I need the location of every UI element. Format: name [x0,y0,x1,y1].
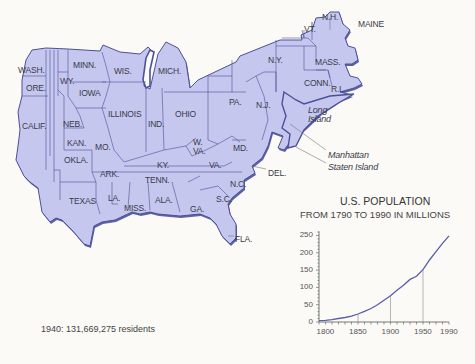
state-label-mo: MO. [95,143,110,152]
chart-subtitle: FROM 1790 TO 1990 IN MILLIONS [300,209,450,220]
state-label-miss: MISS. [124,204,146,213]
state-label-mass: MASS. [315,58,340,67]
state-label-fla: FLA. [235,235,252,244]
x-tick-label: 1850 [349,328,367,336]
x-tick-label: 1990 [440,328,458,336]
y-tick-label: 200 [293,249,313,257]
y-tick-label: 150 [293,266,313,274]
x-tick-label: 1950 [414,328,432,336]
state-label-ore: ORE. [26,84,46,93]
state-label-ky: KY. [157,161,169,170]
state-label-tenn: TENN. [145,176,170,185]
state-label-ga: GA. [190,205,204,214]
place-label-staten-island: Staten Island [328,163,378,172]
state-label-iowa: IOWA [79,89,101,98]
state-label-maine: MAINE [358,20,384,29]
x-tick-label: 1900 [382,328,400,336]
state-label-mich: MICH. [158,67,181,76]
y-tick-label: 0 [293,318,313,326]
state-label-ark: ARK. [100,170,119,179]
state-label-pa: PA. [229,98,241,107]
state-label-calif: CALIF. [22,122,46,131]
state-label-kan: KAN. [67,139,86,148]
state-label-vt: VT. [304,25,316,34]
state-label-wash: WASH. [18,66,45,75]
state-label-ind: IND. [148,120,164,129]
x-tick-label: 1800 [317,328,335,336]
state-label-minn: MINN. [73,61,96,70]
y-tick-label: 50 [293,301,313,309]
state-label-ri: R.I. [331,85,343,94]
state-label-neb: NEB. [63,120,82,129]
y-tick-label: 250 [293,231,313,239]
state-label-md: MD. [233,144,248,153]
y-tick-label: 100 [293,283,313,291]
state-label-ohio: OHIO [175,110,196,119]
state-label-va: VA. [209,161,221,170]
infographic: WASH.ORE.CALIF.WY.MINN.IOWANEB.KAN.OKLA.… [0,0,475,364]
state-label-wis: WIS. [114,67,132,76]
state-label-okla: OKLA. [64,156,88,165]
state-label-sc: S.C. [216,195,232,204]
place-label-manhattan: Manhattan [328,151,369,160]
state-label-illinois: ILLINOIS [108,110,141,119]
place-label-long-island: LongIsland [308,106,331,124]
state-label-ny: N.Y. [268,56,283,65]
state-label-texas: TEXAS [69,197,96,206]
state-label-la: LA. [108,194,120,203]
chart-title: U.S. POPULATION [340,195,430,207]
state-label-wy: WY. [60,77,74,86]
caption-1940: 1940: 131,669,275 residents [41,324,155,334]
state-label-nj: N.J. [256,101,270,110]
state-label-w-va: W.VA. [193,138,205,155]
state-label-ala: ALA. [155,196,173,205]
state-label-del: DEL. [268,169,286,178]
state-label-nc: N.C. [230,180,246,189]
state-label-conn: CONN. [304,79,330,88]
state-label-nh: N.H. [322,13,338,22]
